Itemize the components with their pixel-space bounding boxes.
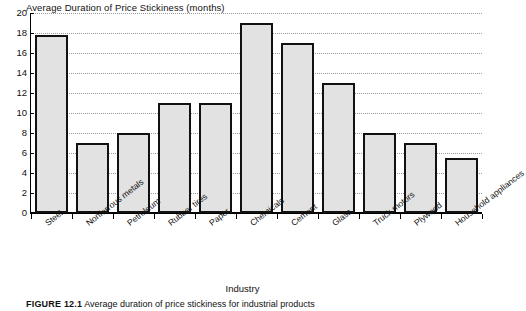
bar	[322, 83, 355, 213]
y-axis-tick-mark	[30, 53, 34, 54]
y-axis-tick-mark	[30, 133, 34, 134]
bar	[240, 23, 273, 213]
y-axis-tick-mark	[30, 93, 34, 94]
bar	[281, 43, 314, 213]
figure-caption-label: FIGURE 12.1	[26, 299, 82, 309]
y-axis-tick-label: 2	[5, 188, 27, 198]
x-axis-tick-mark	[195, 214, 196, 219]
x-axis-tick-mark	[72, 214, 73, 219]
y-axis-tick-mark	[30, 33, 34, 34]
y-axis-tick-label: 20	[5, 8, 27, 18]
x-axis-tick-mark	[318, 214, 319, 219]
x-axis-tick-mark	[277, 214, 278, 219]
y-axis-tick-mark	[30, 173, 34, 174]
bar	[35, 35, 68, 213]
y-axis-tick-mark	[30, 153, 34, 154]
x-axis-tick-mark	[482, 214, 483, 219]
bar	[158, 103, 191, 213]
x-axis-labels: SteelNonferrous metalsPetroleumRubber ti…	[0, 218, 485, 288]
y-axis-tick-label: 14	[5, 68, 27, 78]
y-axis-tick-mark	[30, 13, 34, 14]
bar	[76, 143, 109, 213]
y-axis-tick-label: 10	[5, 108, 27, 118]
y-axis: 02468101214161820	[0, 13, 27, 213]
x-axis-title: Industry	[0, 283, 485, 294]
y-axis-tick-mark	[30, 193, 34, 194]
x-axis-tick-mark	[236, 214, 237, 219]
y-axis-tick-mark	[30, 113, 34, 114]
chart-title: Average Duration of Price Stickiness (mo…	[26, 2, 225, 13]
y-axis-tick-label: 16	[5, 48, 27, 58]
figure-caption: FIGURE 12.1 Average duration of price st…	[26, 299, 485, 311]
y-axis-tick-label: 6	[5, 148, 27, 158]
y-axis-tick-mark	[30, 73, 34, 74]
y-axis-tick-label: 8	[5, 128, 27, 138]
x-axis-tick-mark	[113, 214, 114, 219]
y-axis-tick-label: 0	[5, 208, 27, 218]
bar-series	[31, 13, 482, 213]
y-axis-tick-label: 12	[5, 88, 27, 98]
x-axis-tick-mark	[31, 214, 32, 219]
bar	[363, 133, 396, 213]
y-axis-tick-label: 4	[5, 168, 27, 178]
x-axis-tick-mark	[441, 214, 442, 219]
y-axis-tick-label: 18	[5, 28, 27, 38]
x-axis-tick-mark	[400, 214, 401, 219]
x-axis-tick-mark	[359, 214, 360, 219]
x-axis-tick-mark	[154, 214, 155, 219]
figure-caption-text: Average duration of price stickiness for…	[84, 299, 314, 309]
